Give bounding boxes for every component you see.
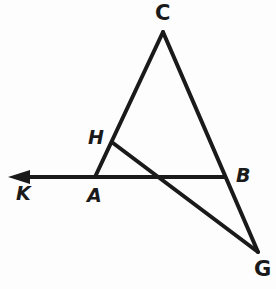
geometry-figure: C H K A B G [0,0,276,289]
geometry-canvas [0,0,276,289]
vertex-label-g: G [254,259,271,280]
figure-background [0,0,276,289]
vertex-label-b: B [236,166,250,185]
vertex-label-h: H [88,128,104,147]
vertex-label-c: C [155,3,170,24]
vertex-label-a: A [87,186,102,205]
vertex-label-k: K [16,184,31,203]
